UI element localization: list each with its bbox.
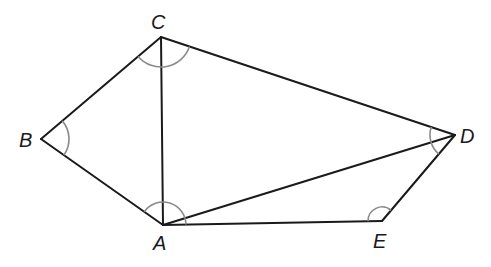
vertex-label-d: D [460,125,474,147]
vertex-label-b: B [19,129,32,151]
angle-mark-a [144,202,186,225]
side-cd [161,37,455,135]
edges-group [41,37,455,225]
vertex-label-e: E [373,230,387,252]
diagonal-ac [161,37,163,225]
vertex-labels-group: A B C D E [19,11,474,254]
side-ab [41,139,163,225]
side-ea [163,221,382,225]
pentagon-diagram: A B C D E [0,0,491,267]
side-bc [41,37,161,139]
side-de [382,135,455,221]
vertex-label-c: C [151,11,166,33]
vertex-label-a: A [152,232,166,254]
diagonal-ad [163,135,455,225]
angle-mark-b [62,121,69,155]
